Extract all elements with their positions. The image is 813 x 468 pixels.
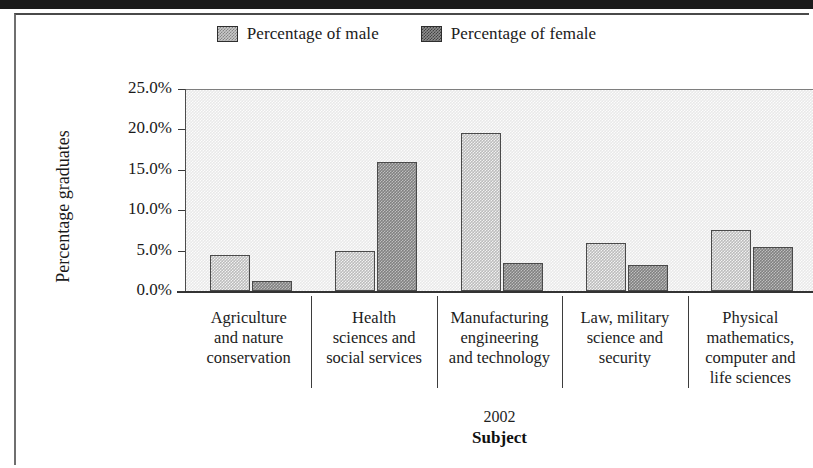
legend-item-female[interactable]: Percentage of female — [421, 24, 596, 44]
x-axis-line — [177, 291, 813, 293]
bar-male-1[interactable] — [335, 251, 375, 291]
y-tick-label: 15.0% — [88, 159, 172, 179]
category-separator — [311, 296, 312, 388]
category-label-line: computer and — [705, 348, 795, 368]
y-tick-mark — [178, 291, 185, 292]
y-tick-mark — [178, 210, 185, 211]
category-separator — [562, 296, 563, 388]
y-tick-mark — [178, 251, 185, 252]
legend-label-female: Percentage of female — [451, 24, 596, 44]
year-note: 2002 — [186, 408, 813, 426]
category-label-line: and technology — [449, 348, 550, 368]
category-label-line: and nature — [214, 328, 283, 348]
bars-container — [186, 89, 813, 291]
legend-label-male: Percentage of male — [247, 24, 379, 44]
category-label-line: social services — [326, 348, 422, 368]
category-label-4: Physicalmathematics,computer andlife sci… — [688, 296, 813, 402]
category-label-line: sciences and — [333, 328, 416, 348]
category-separator — [437, 296, 438, 388]
page-top-band — [0, 0, 813, 9]
y-tick-label: 5.0% — [88, 240, 172, 260]
y-tick-mark — [178, 89, 185, 90]
category-separator — [688, 296, 689, 388]
x-axis-title: Subject — [186, 428, 813, 448]
bar-male-2[interactable] — [461, 133, 501, 291]
y-axis-title: Percentage graduates — [53, 82, 74, 332]
y-tick-label: 25.0% — [88, 78, 172, 98]
bar-female-2[interactable] — [503, 263, 543, 291]
category-label-2: Manufacturingengineeringand technology — [437, 296, 562, 402]
bar-female-3[interactable] — [628, 265, 668, 291]
y-tick-mark — [178, 170, 185, 171]
bar-male-3[interactable] — [586, 243, 626, 291]
x-axis-categories: Agricultureand natureconservationHealths… — [186, 296, 813, 402]
category-label-line: Physical — [722, 308, 778, 328]
category-label-line: mathematics, — [707, 328, 795, 348]
category-label-line: engineering — [461, 328, 539, 348]
chart-legend: Percentage of male Percentage of female — [0, 24, 813, 44]
category-label-3: Law, militaryscience andsecurity — [562, 296, 687, 402]
category-label-line: science and — [587, 328, 664, 348]
y-tick-mark — [178, 129, 185, 130]
female-swatch-icon — [421, 26, 442, 42]
category-label-line: Agriculture — [211, 308, 287, 328]
y-tick-label: 0.0% — [88, 280, 172, 300]
category-label-line: conservation — [207, 348, 291, 368]
category-label-line: Law, military — [581, 308, 670, 328]
category-label-line: life sciences — [710, 368, 791, 388]
bar-female-1[interactable] — [377, 162, 417, 291]
category-label-1: Healthsciences andsocial services — [311, 296, 436, 402]
category-label-line: security — [599, 348, 651, 368]
chart-figure: Percentage of male Percentage of female … — [0, 0, 813, 468]
category-label-0: Agricultureand natureconservation — [186, 296, 311, 402]
category-label-line: Health — [352, 308, 396, 328]
legend-item-male[interactable]: Percentage of male — [217, 24, 379, 44]
y-tick-label: 10.0% — [88, 199, 172, 219]
bar-male-4[interactable] — [711, 230, 751, 291]
category-label-line: Manufacturing — [450, 308, 548, 328]
bar-female-4[interactable] — [753, 247, 793, 291]
bar-female-0[interactable] — [252, 281, 292, 291]
bar-male-0[interactable] — [210, 255, 250, 291]
male-swatch-icon — [217, 26, 238, 42]
y-tick-label: 20.0% — [88, 118, 172, 138]
